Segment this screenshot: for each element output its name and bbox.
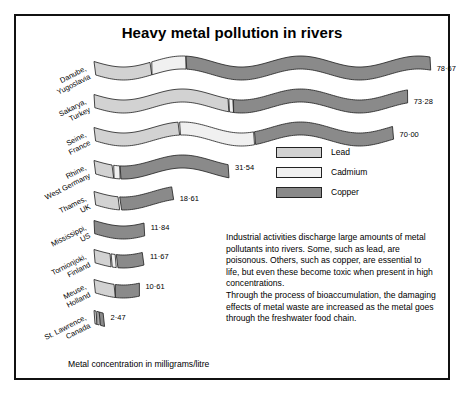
legend-swatch-cadmium <box>276 167 322 178</box>
bar-value-label: 10·61 <box>145 282 164 291</box>
bar-segment-copper <box>234 89 408 113</box>
bar-value-label: 31·54 <box>235 163 254 172</box>
bar-segment-lead <box>94 280 115 298</box>
river-bar-danube <box>94 53 435 83</box>
legend-swatch-lead <box>276 147 322 158</box>
bar-segment-copper <box>186 56 431 80</box>
river-bar-sakarya <box>94 86 412 116</box>
bar-segment-lead <box>94 122 180 146</box>
legend-label: Cadmium <box>331 167 367 177</box>
bar-value-label: 18·61 <box>180 194 199 203</box>
bar-segment-cadmium <box>229 99 234 113</box>
bar-segment-copper <box>116 252 144 268</box>
bar-segment-lead <box>94 250 111 267</box>
legend-label: Copper <box>331 187 359 197</box>
bar-segment-cadmium <box>180 122 255 146</box>
bar-segment-cadmium <box>111 254 116 268</box>
bar-segment-lead <box>94 311 97 325</box>
bar-segment-copper <box>99 312 104 326</box>
legend-item-cadmium: Cadmium <box>276 164 367 180</box>
bar-segment-copper <box>120 155 229 179</box>
legend-label: Lead <box>331 147 350 157</box>
legend-item-lead: Lead <box>276 144 367 160</box>
bar-segment-copper <box>94 221 145 239</box>
note-paragraph: Through the process of bioaccumulation, … <box>226 290 436 325</box>
chart-legend: LeadCadmiumCopper <box>276 144 367 204</box>
bar-segment-lead <box>94 62 152 81</box>
bar-segment-copper <box>115 283 139 298</box>
river-bar-tornionjoki <box>94 241 148 271</box>
legend-swatch-copper <box>276 187 322 198</box>
note-paragraph: Industrial activities discharge large am… <box>226 232 436 290</box>
river-bar-rhine <box>94 152 233 182</box>
bar-segment-cadmium <box>152 56 186 75</box>
bar-segment-lead <box>94 192 120 210</box>
bar-segment-cadmium <box>114 165 120 179</box>
chart-plot-area: 78·67Danube,Yugoslavia73·28Sakarya,Turke… <box>16 16 452 382</box>
bar-segment-copper <box>255 122 394 146</box>
axis-caption: Metal concentration in milligrams/litre <box>68 359 209 369</box>
legend-item-copper: Copper <box>276 184 367 200</box>
bar-value-label: 70·00 <box>400 130 419 139</box>
bar-value-label: 78·67 <box>437 64 456 73</box>
river-bar-thames <box>94 183 178 213</box>
river-bar-st--lawrence <box>94 302 109 332</box>
bar-segment-lead <box>94 89 229 113</box>
explanatory-note: Industrial activities discharge large am… <box>226 232 436 325</box>
bar-value-label: 11·67 <box>150 252 169 261</box>
bar-value-label: 11·84 <box>151 223 170 232</box>
river-bar-meuse <box>94 271 144 301</box>
bar-value-label: 2·47 <box>111 313 126 322</box>
chart-frame: Heavy metal pollution in rivers 78·67Dan… <box>14 14 450 380</box>
river-bar-mississippi <box>94 212 149 242</box>
bar-segment-lead <box>94 161 114 179</box>
bar-segment-cadmium <box>97 311 99 325</box>
bar-value-label: 73·28 <box>414 97 433 106</box>
bar-segment-copper <box>120 187 174 210</box>
